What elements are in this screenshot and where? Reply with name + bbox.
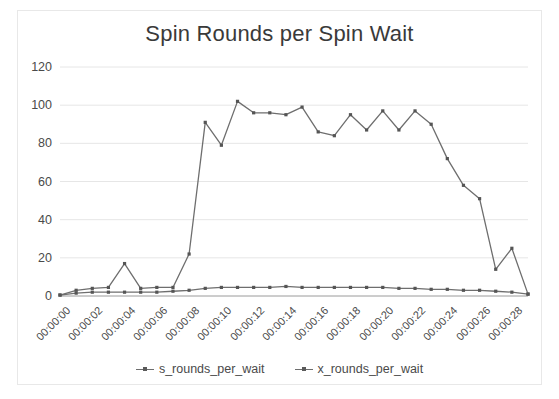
y-axis-tick-label: 80 <box>14 136 52 150</box>
y-axis-tick-label: 40 <box>14 213 52 227</box>
legend-marker-icon <box>295 365 313 374</box>
chart-title: Spin Rounds per Spin Wait <box>18 21 541 47</box>
y-axis-tick-label: 120 <box>14 60 52 74</box>
legend-item-x-rounds-per-wait[interactable]: x_rounds_per_wait <box>295 362 424 376</box>
legend-label: s_rounds_per_wait <box>159 362 265 376</box>
legend-item-s-rounds-per-wait[interactable]: s_rounds_per_wait <box>136 362 265 376</box>
y-axis-tick-label: 0 <box>14 289 52 303</box>
legend-marker-icon <box>136 365 154 374</box>
y-axis-tick-label: 100 <box>14 98 52 112</box>
chart-legend: s_rounds_per_wait x_rounds_per_wait <box>0 362 559 376</box>
legend-label: x_rounds_per_wait <box>318 362 424 376</box>
y-axis-tick-label: 20 <box>14 251 52 265</box>
y-axis-tick-label: 60 <box>14 175 52 189</box>
